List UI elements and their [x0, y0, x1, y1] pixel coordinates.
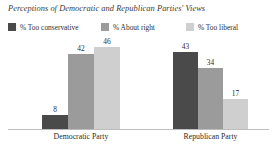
bar-group-republican-party: 43 34 17 — [173, 36, 248, 129]
bar-value-democratic-too-liberal: 46 — [94, 37, 120, 46]
bar-value-republican-too-liberal: 17 — [223, 89, 248, 98]
legend-label-too-conservative: % Too conservative — [20, 23, 78, 32]
bar-cell-democratic-too-conservative: 8 — [42, 36, 68, 129]
plot-area: 8 42 46 43 34 — [0, 36, 277, 130]
bar-republican-about-right[interactable] — [198, 68, 223, 129]
legend-swatch-too-conservative — [8, 23, 16, 31]
legend-item-too-conservative[interactable]: % Too conservative — [8, 21, 78, 33]
bar-chart: Perceptions of Democratic and Republican… — [0, 0, 277, 150]
legend-label-too-liberal: % Too liberal — [198, 23, 238, 32]
bar-cell-republican-about-right: 34 — [198, 36, 223, 129]
bar-cell-democratic-too-liberal: 46 — [94, 36, 120, 129]
legend-label-about-right: % About right — [113, 23, 155, 32]
bar-value-republican-about-right: 34 — [198, 58, 223, 67]
legend-item-too-liberal[interactable]: % Too liberal — [186, 21, 238, 33]
bar-democratic-too-conservative[interactable] — [42, 115, 68, 129]
category-label-republican-party: Republican Party — [173, 132, 248, 142]
bar-group-democratic-party: 8 42 46 — [42, 36, 120, 129]
bar-cell-republican-too-conservative: 43 — [173, 36, 198, 129]
bar-democratic-about-right[interactable] — [68, 54, 94, 129]
bar-cell-democratic-about-right: 42 — [68, 36, 94, 129]
bar-value-democratic-about-right: 42 — [68, 44, 94, 53]
bar-republican-too-conservative[interactable] — [173, 52, 198, 129]
category-label-democratic-party: Democratic Party — [42, 132, 120, 142]
bar-republican-too-liberal[interactable] — [223, 99, 248, 129]
legend-swatch-too-liberal — [186, 23, 194, 31]
bar-value-democratic-too-conservative: 8 — [42, 105, 68, 114]
chart-legend: % Too conservative % About right % Too l… — [8, 21, 273, 33]
chart-title: Perceptions of Democratic and Republican… — [8, 3, 270, 14]
legend-swatch-about-right — [101, 23, 109, 31]
bar-value-republican-too-conservative: 43 — [173, 42, 198, 51]
axis-baseline — [8, 129, 269, 130]
bar-democratic-too-liberal[interactable] — [94, 47, 120, 129]
bar-cell-republican-too-liberal: 17 — [223, 36, 248, 129]
legend-item-about-right[interactable]: % About right — [101, 21, 155, 33]
